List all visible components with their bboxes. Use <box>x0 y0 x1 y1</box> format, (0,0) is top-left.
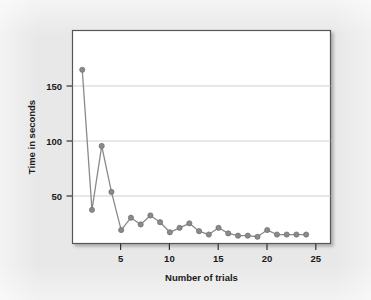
data-point <box>206 232 211 237</box>
data-point <box>226 231 231 236</box>
y-axis-title: Time in seconds <box>26 100 37 174</box>
data-point <box>255 234 260 239</box>
data-point <box>177 225 182 230</box>
x-tick-labels: 5 10 15 20 25 <box>118 253 322 264</box>
data-point <box>99 143 104 148</box>
data-point <box>235 233 240 238</box>
x-tick-label-25: 25 <box>311 253 322 264</box>
chart-canvas: 150 100 50 5 10 15 20 25 Number of trial… <box>0 0 371 300</box>
data-point <box>304 232 309 237</box>
x-tick-label-20: 20 <box>262 253 273 264</box>
data-point <box>284 232 289 237</box>
plot-area-background <box>73 31 331 244</box>
data-point <box>245 233 250 238</box>
data-point <box>196 229 201 234</box>
x-axis-title: Number of trials <box>165 272 238 283</box>
data-point <box>109 189 114 194</box>
data-point <box>148 213 153 218</box>
y-axis-ticks <box>67 86 73 196</box>
data-point <box>265 227 270 232</box>
x-axis-ticks <box>121 244 316 251</box>
x-tick-label-10: 10 <box>164 253 175 264</box>
figure-container: 150 100 50 5 10 15 20 25 Number of trial… <box>0 0 371 300</box>
data-point <box>187 221 192 226</box>
data-point <box>80 67 85 72</box>
data-point <box>167 230 172 235</box>
x-tick-label-5: 5 <box>118 253 124 264</box>
data-point <box>294 232 299 237</box>
x-tick-label-15: 15 <box>213 253 224 264</box>
y-tick-labels: 150 100 50 <box>46 81 62 202</box>
data-point <box>274 232 279 237</box>
data-point <box>128 215 133 220</box>
data-point <box>216 225 221 230</box>
plot-panel <box>73 31 331 244</box>
y-tick-label-150: 150 <box>46 81 62 92</box>
data-point <box>158 220 163 225</box>
data-point <box>119 227 124 232</box>
y-tick-label-100: 100 <box>46 136 62 147</box>
data-point <box>89 207 94 212</box>
y-tick-label-50: 50 <box>51 191 62 202</box>
data-point <box>138 222 143 227</box>
